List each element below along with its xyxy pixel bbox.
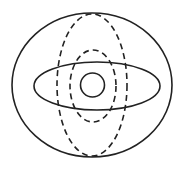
center-circle xyxy=(81,73,105,97)
inner-dashed-ellipse xyxy=(70,50,116,122)
nested-ellipses-diagram xyxy=(0,0,177,178)
outer-ellipse xyxy=(12,13,172,157)
horizontal-ellipse xyxy=(34,62,160,110)
tall-dashed-ellipse xyxy=(57,14,127,156)
